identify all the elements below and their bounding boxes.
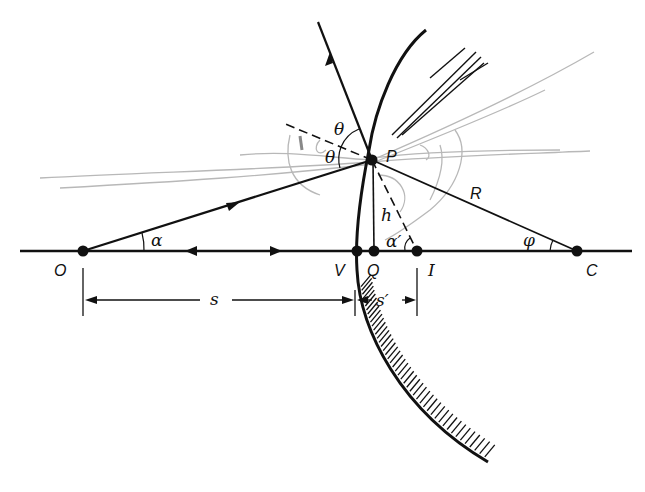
label-phi: φ <box>523 230 535 250</box>
axis-arrow-right-icon <box>270 246 282 256</box>
label-P: P <box>386 148 397 165</box>
dim-s-prime-arrow-right-icon <box>405 296 416 304</box>
point-Q <box>369 246 380 257</box>
label-alpha-prime: α′ <box>386 231 401 251</box>
label-V: V <box>334 262 346 279</box>
point-P <box>367 155 378 166</box>
point-C <box>572 246 583 257</box>
height-line <box>373 160 374 251</box>
label-C: C <box>586 262 598 279</box>
label-alpha: α <box>151 230 163 250</box>
label-Q: Q <box>367 262 379 279</box>
label-h: h <box>381 205 392 225</box>
dim-s-arrow-left-icon <box>85 296 97 304</box>
point-V <box>352 246 363 257</box>
label-O: O <box>54 262 66 279</box>
pencil-annotations <box>40 52 594 240</box>
reflected-ray-arrow-icon <box>325 52 333 66</box>
incident-ray-arrow-icon <box>226 202 240 211</box>
mirror-diagram: O V Q I C P α α′ θ θ φ R h s s′ <box>0 0 645 492</box>
label-theta-lower: θ <box>325 147 335 167</box>
axis-arrow-left-icon <box>185 246 197 256</box>
label-s-prime: s′ <box>376 290 389 310</box>
radius-line <box>372 160 577 251</box>
angle-alpha-prime-arc <box>405 238 410 251</box>
dimension-s <box>83 268 355 316</box>
label-R: R <box>470 185 482 202</box>
angle-phi-arc <box>550 240 553 251</box>
label-theta-upper: θ <box>334 119 344 139</box>
label-s: s <box>210 289 219 309</box>
angle-alpha-arc <box>142 233 144 251</box>
point-I <box>412 246 423 257</box>
mirror-hatching-top <box>392 48 488 138</box>
point-O <box>78 246 89 257</box>
dim-s-arrow-right-icon <box>342 296 354 304</box>
label-I: I <box>427 260 435 280</box>
